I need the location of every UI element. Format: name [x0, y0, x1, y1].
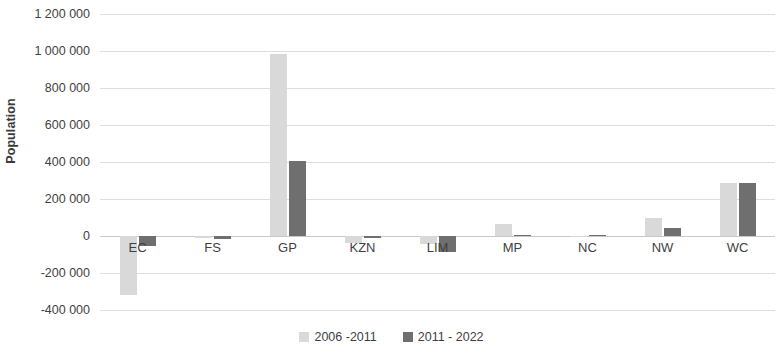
bar [195, 236, 212, 238]
y-axis-tick-labels: 1 200 0001 000 000800 000600 000400 0002… [0, 0, 96, 353]
bar [589, 235, 606, 236]
bar [664, 228, 681, 236]
bar-group [550, 14, 625, 310]
bar-group [250, 14, 325, 310]
legend-swatch [299, 332, 309, 342]
x-axis-tick-label: WC [727, 240, 749, 255]
legend-entry[interactable]: 2006 -2011 [299, 330, 376, 344]
x-axis-tick-labels: ECFSGPKZNLIMMPNCNWWC [100, 240, 775, 262]
bar [495, 224, 512, 236]
bar-group [475, 14, 550, 310]
y-axis-tick-label: 800 000 [45, 82, 90, 95]
bar [514, 235, 531, 236]
bar-chart: Population 1 200 0001 000 000800 000600 … [0, 0, 783, 353]
bar-group [625, 14, 700, 310]
x-axis-tick-label: LIM [427, 240, 449, 255]
y-axis-tick-label: 400 000 [45, 156, 90, 169]
x-axis-tick-label: MP [503, 240, 523, 255]
x-axis-tick-label: NC [578, 240, 597, 255]
bars-layer [100, 14, 775, 310]
bar [739, 183, 756, 236]
bar [570, 236, 587, 237]
x-axis-tick-label: KZN [350, 240, 376, 255]
bar-group [175, 14, 250, 310]
x-axis-tick-label: FS [204, 240, 221, 255]
bar [214, 236, 231, 239]
bar-group [400, 14, 475, 310]
y-axis-tick-label: 200 000 [45, 193, 90, 206]
legend-label: 2011 - 2022 [418, 330, 484, 344]
y-axis-tick-label: 600 000 [45, 119, 90, 132]
bar-group [325, 14, 400, 310]
y-axis-tick-label: 1 000 000 [34, 45, 90, 58]
y-axis-tick-label: -200 000 [41, 267, 90, 280]
bar [364, 236, 381, 238]
legend-entry[interactable]: 2011 - 2022 [403, 330, 484, 344]
chart-legend: 2006 -20112011 - 2022 [0, 330, 783, 344]
bar [720, 183, 737, 236]
y-axis-tick-label: 0 [83, 230, 90, 243]
y-axis-tick-label: -400 000 [41, 304, 90, 317]
x-axis-tick-label: EC [128, 240, 146, 255]
plot-area [100, 14, 775, 310]
y-axis-tick-label: 1 200 000 [34, 8, 90, 21]
bar [289, 161, 306, 236]
bar [645, 218, 662, 236]
bar [270, 54, 287, 236]
gridline [100, 310, 775, 311]
legend-swatch [403, 332, 413, 342]
bar-group [100, 14, 175, 310]
legend-label: 2006 -2011 [314, 330, 376, 344]
x-axis-tick-label: GP [278, 240, 297, 255]
x-axis-tick-label: NW [652, 240, 674, 255]
bar-group [700, 14, 775, 310]
